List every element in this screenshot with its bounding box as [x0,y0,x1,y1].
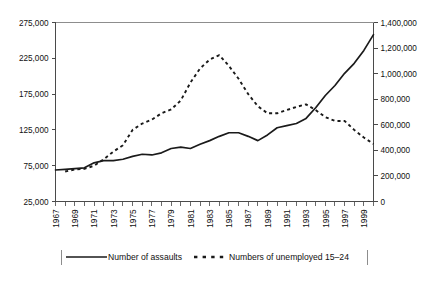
right-axis-tick-label: 400,000 [381,146,411,155]
x-axis-tick-label: 1981 [187,209,196,228]
left-axis-ticks: 25,00075,000125,000175,000225,000275,000 [19,19,56,207]
x-axis-tick-label: 1991 [283,209,292,228]
x-axis-tick-label: 1989 [264,209,273,228]
dual-axis-line-chart: 25,00075,000125,000175,000225,000275,000… [0,0,428,282]
right-axis-ticks: 0200,000400,000600,000800,0001,000,0001,… [374,19,418,207]
left-axis-tick-label: 125,000 [19,126,49,135]
right-axis-tick-label: 1,000,000 [381,70,418,79]
x-axis-tick-label: 1987 [244,209,253,228]
right-axis-tick-label: 1,200,000 [381,44,418,53]
left-axis-tick-label: 225,000 [19,54,49,63]
x-axis-tick-label: 1983 [206,209,215,228]
series-line-unemployed [65,55,373,171]
x-axis-tick-label: 1969 [71,209,80,228]
x-axis-tick-label: 1967 [52,209,61,228]
x-axis-tick-label: 1975 [129,209,138,228]
left-axis-tick-label: 75,000 [23,162,48,171]
right-axis-tick-label: 200,000 [381,172,411,181]
legend-label-assaults: Number of assaults [108,252,182,262]
left-axis-tick-label: 175,000 [19,90,49,99]
chart-legend: Number of assaultsNumbers of unemployed … [61,250,367,265]
x-axis-tick-label: 1999 [360,209,369,228]
x-axis-tick-label: 1985 [225,209,234,228]
series-lines [56,35,374,172]
x-axis-tick-label: 1973 [110,209,119,228]
right-axis-tick-label: 600,000 [381,121,411,130]
chart-container: 25,00075,000125,000175,000225,000275,000… [0,0,428,282]
x-axis-tick-label: 1971 [90,209,99,228]
x-axis-tick-label: 1997 [341,209,350,228]
left-axis-tick-label: 275,000 [19,19,49,28]
right-axis-tick-label: 1,400,000 [381,19,418,28]
legend-label-unemployed: Numbers of unemployed 15–24 [229,252,349,262]
right-axis-tick-label: 0 [381,198,386,207]
left-axis-tick-label: 25,000 [23,198,48,207]
x-axis-ticks: 1967196919711973197519771979198119831985… [52,202,374,228]
right-axis-tick-label: 800,000 [381,95,411,104]
x-axis-tick-label: 1993 [302,209,311,228]
x-axis-tick-label: 1977 [148,209,157,228]
series-line-assaults [56,35,374,170]
plot-frame [56,23,374,202]
x-axis-tick-label: 1979 [167,209,176,228]
x-axis-tick-label: 1995 [322,209,331,228]
